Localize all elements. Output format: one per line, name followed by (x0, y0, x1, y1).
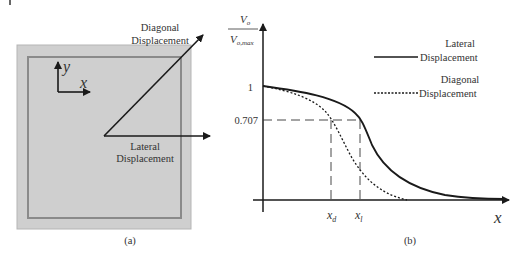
lateral-label-1: Lateral (130, 141, 160, 152)
plate (17, 45, 191, 229)
lateral-curve (263, 86, 505, 199)
x-tick-l: xl (354, 208, 363, 224)
y-label-numerator: Vo (240, 13, 251, 27)
legend-diagonal-2: Displacement (419, 88, 477, 99)
diagonal-curve (263, 86, 407, 200)
x-tick-d: xd (326, 208, 337, 224)
panel-a: y x Diagonal Displacement Lateral Displa… (17, 22, 210, 247)
y-tick-1: 1 (248, 82, 253, 93)
legend-diagonal-1: Diagonal (441, 74, 480, 85)
caption-b: (b) (404, 235, 417, 247)
axis-label-y: y (61, 58, 71, 76)
caption-a: (a) (124, 235, 136, 247)
legend-lateral-2: Displacement (420, 52, 478, 63)
diagonal-label-2: Displacement (131, 35, 189, 46)
lateral-label-2: Displacement (116, 153, 174, 164)
x-axis-label: x (493, 208, 502, 227)
legend-lateral-1: Lateral (445, 38, 475, 49)
axis-label-x: x (79, 74, 87, 91)
edge-mark (9, 0, 11, 5)
diagonal-label-1: Diagonal (141, 22, 180, 33)
y-label-denominator: Vo,max (230, 33, 255, 47)
figure: y x Diagonal Displacement Lateral Displa… (0, 0, 525, 257)
y-tick-0707: 0.707 (234, 115, 258, 126)
panel-b: Vo Vo,max 1 0.707 xd xl x Lateral Displa… (228, 13, 509, 247)
